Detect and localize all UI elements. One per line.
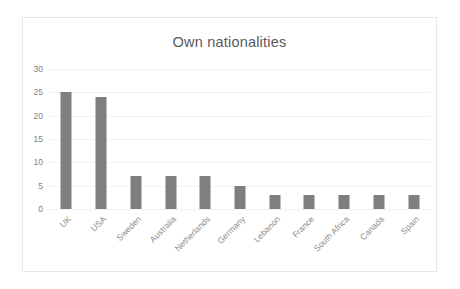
plot-area: 051015202530 UKUSASwedenAustraliaNetherl… xyxy=(49,69,431,209)
chart-title: Own nationalities xyxy=(23,34,436,50)
bar[interactable] xyxy=(269,195,280,209)
y-axis-tick-label: 20 xyxy=(34,111,43,121)
chart-container: Own nationalities 051015202530 UKUSASwed… xyxy=(22,17,437,272)
x-axis-tick-label: Lebanon xyxy=(251,214,281,244)
bar[interactable] xyxy=(234,186,245,209)
y-axis-tick-label: 25 xyxy=(34,87,43,97)
bar-slot: Netherlands xyxy=(188,69,223,209)
x-axis-tick-label: Germany xyxy=(215,214,247,246)
x-axis-tick-label: France xyxy=(291,214,317,240)
bar[interactable] xyxy=(200,176,211,209)
bar-slot: Australia xyxy=(153,69,188,209)
bar[interactable] xyxy=(61,92,72,209)
x-axis-tick-label: Canada xyxy=(358,214,386,242)
bar-slot: Sweden xyxy=(118,69,153,209)
bar[interactable] xyxy=(130,176,141,209)
bar-series: UKUSASwedenAustraliaNetherlandsGermanyLe… xyxy=(49,69,431,209)
x-axis-tick-label: Netherlands xyxy=(173,214,212,253)
x-axis-tick-label: Spain xyxy=(398,214,420,236)
y-axis-tick-label: 0 xyxy=(38,204,43,214)
y-axis-tick-label: 10 xyxy=(34,157,43,167)
x-axis-tick-label: UK xyxy=(58,214,73,229)
y-axis-tick-label: 5 xyxy=(38,181,43,191)
bar-slot: UK xyxy=(49,69,84,209)
bar[interactable] xyxy=(408,195,419,209)
y-axis-tick-label: 15 xyxy=(34,134,43,144)
bar[interactable] xyxy=(96,97,107,209)
bar[interactable] xyxy=(373,195,384,209)
x-axis-tick-label: Sweden xyxy=(114,214,143,243)
bar-slot: Spain xyxy=(396,69,431,209)
bar-slot: France xyxy=(292,69,327,209)
gridline xyxy=(49,209,431,210)
bar-slot: Germany xyxy=(223,69,258,209)
y-axis-tick-label: 30 xyxy=(34,64,43,74)
x-axis-tick-label: Australia xyxy=(147,214,177,244)
x-axis-tick-label: USA xyxy=(89,214,108,233)
bar-slot: Canada xyxy=(362,69,397,209)
bar[interactable] xyxy=(304,195,315,209)
x-axis-tick-label: South Africa xyxy=(312,214,351,253)
bar-slot: South Africa xyxy=(327,69,362,209)
bar-slot: USA xyxy=(84,69,119,209)
bar[interactable] xyxy=(339,195,350,209)
bar[interactable] xyxy=(165,176,176,209)
bar-slot: Lebanon xyxy=(257,69,292,209)
